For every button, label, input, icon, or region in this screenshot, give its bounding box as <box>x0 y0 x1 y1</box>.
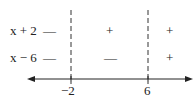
sign-cell: + <box>166 51 173 64</box>
sign-cell: — <box>43 51 56 64</box>
critical-point-label: 6 <box>144 84 151 97</box>
left-arrow-icon <box>27 76 35 82</box>
sign-cell: + <box>106 24 113 37</box>
row-label: x + 2 <box>10 24 37 37</box>
right-arrow-icon <box>185 76 193 82</box>
sign-cell: — <box>104 51 117 64</box>
sign-cell: — <box>43 24 56 37</box>
row-label: x − 6 <box>10 51 37 64</box>
sign-cell: + <box>166 24 173 37</box>
critical-point-label: −2 <box>61 84 75 97</box>
